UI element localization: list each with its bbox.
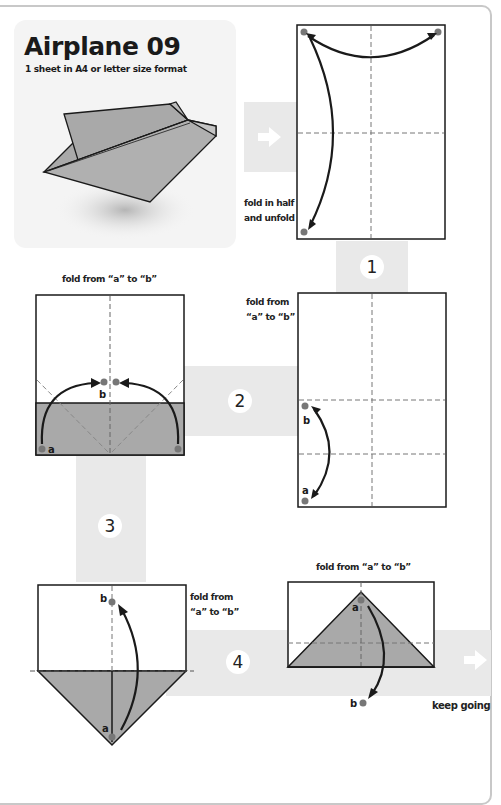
step5-instruction: fold from “a” to “b”: [316, 560, 411, 575]
point-a-label: a: [302, 485, 309, 496]
step-badge-4: 4: [226, 650, 250, 674]
step-badge-2: 2: [228, 389, 252, 413]
step2-diagram: b a: [297, 292, 449, 510]
step4-diagram: b a: [28, 582, 198, 748]
step-badge-1: 1: [360, 255, 384, 279]
point-a-label: a: [48, 444, 55, 455]
finished-airplane-illustration: [30, 90, 230, 250]
page-title: Airplane 09: [24, 34, 180, 59]
step5-diagram: a b: [286, 580, 438, 710]
point-b-label: b: [303, 415, 310, 426]
step3-instruction: fold from “a” to “b”: [62, 272, 157, 287]
keep-going-label: keep going: [432, 698, 490, 713]
step4-instruction: fold from “a” to “b”: [190, 590, 239, 620]
point-b-label: b: [100, 593, 107, 604]
step-badge-3: 3: [98, 514, 122, 538]
keep-going-arrow-icon[interactable]: [462, 649, 488, 671]
point-a-label: a: [352, 602, 359, 613]
step1-diagram: [296, 24, 448, 242]
step1-instruction: fold in half and unfold: [244, 196, 295, 226]
point-b-label: b: [99, 389, 106, 400]
next-arrow-icon: [256, 126, 282, 148]
point-b-label: b: [350, 698, 357, 709]
step3-diagram: b a: [35, 294, 187, 458]
page-subtitle: 1 sheet in A4 or letter size format: [25, 64, 187, 74]
point-a-label: a: [102, 723, 109, 734]
step2-instruction: fold from “a” to “b”: [246, 295, 295, 325]
